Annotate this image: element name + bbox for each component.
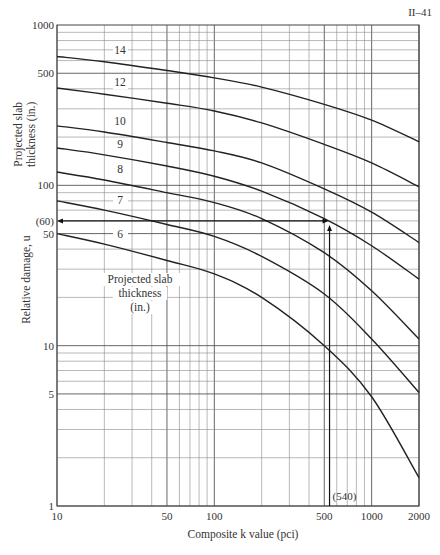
y-tick-label: 1000: [32, 19, 55, 31]
curve-label-14: 14: [114, 44, 126, 56]
curve-label-8: 8: [117, 163, 123, 175]
legend-title-line: (in.): [130, 301, 150, 314]
curve-label-6: 6: [117, 228, 123, 240]
curve-label-7: 7: [117, 194, 123, 206]
y-tick-label: 100: [38, 179, 55, 191]
arrow-up-icon: [327, 225, 332, 231]
y2-axis-title: Projected slabthickness (in.): [12, 102, 38, 167]
legend-title: Projected slabthickness(in.): [99, 273, 181, 314]
annotation-60: (60): [36, 215, 55, 228]
annotations: (60)(540): [28, 213, 357, 506]
labels: 1412109876105010050010002000151050100500…: [12, 19, 431, 541]
x-tick-label: 1000: [361, 510, 384, 522]
y-tick-label: 1: [49, 500, 55, 512]
curve-label-10: 10: [114, 115, 126, 127]
y-tick-label: 50: [43, 228, 55, 240]
x-tick-label: 2000: [408, 510, 431, 522]
y-tick-label: 500: [38, 67, 55, 79]
relative-damage-chart: 1412109876105010050010002000151050100500…: [0, 0, 440, 555]
y-tick-label: 5: [49, 388, 55, 400]
legend-title-line: thickness: [119, 287, 162, 299]
x-tick-label: 500: [316, 510, 333, 522]
y2-title-line1: Projected slab: [12, 102, 25, 167]
annotation-540: (540): [333, 490, 357, 503]
curve-label-9: 9: [117, 138, 123, 150]
legend-title-line: Projected slab: [108, 273, 173, 286]
grid: [57, 25, 419, 506]
x-tick-label: 50: [161, 510, 173, 522]
y-tick-label: 10: [43, 340, 55, 352]
y-axis-title: Relative damage, u: [20, 235, 33, 324]
x-tick-label: 100: [206, 510, 223, 522]
curve-label-12: 12: [114, 76, 126, 88]
x-axis-title: Composite k value (pci): [188, 528, 299, 541]
y2-title-line2: thickness (in.): [25, 102, 38, 167]
arrow-left-icon: [57, 218, 63, 223]
